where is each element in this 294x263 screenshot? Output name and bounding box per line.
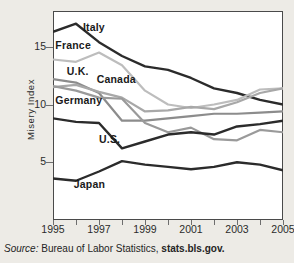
x-tick-1997: 1997 — [79, 223, 119, 235]
x-tick-1999: 1999 — [125, 223, 165, 235]
x-tick-2005: 2005 — [263, 223, 294, 235]
series-line-italy — [53, 24, 283, 105]
y-tickmark — [46, 162, 53, 163]
series-label-us: U.S. — [99, 133, 120, 145]
series-label-italy: Italy — [83, 21, 105, 33]
source-url: stats.bls.gov. — [161, 243, 224, 254]
series-label-japan: Japan — [74, 178, 105, 190]
x-tickmark — [122, 220, 123, 225]
x-tickmark — [168, 220, 169, 225]
y-tick-15: 15 — [30, 40, 46, 52]
source-prefix: Source: — [4, 243, 38, 254]
series-label-uk: U.K. — [67, 65, 89, 77]
y-tick-labels: 51015 — [28, 0, 46, 220]
source-caption: Source: Bureau of Labor Statistics, stat… — [4, 243, 225, 254]
x-tickmark — [214, 220, 215, 225]
series-label-france: France — [55, 39, 91, 51]
series-label-germany: Germany — [55, 94, 102, 106]
x-tick-2001: 2001 — [171, 223, 211, 235]
x-tick-1995: 1995 — [33, 223, 73, 235]
x-tickmark — [76, 220, 77, 225]
y-tickmark — [46, 47, 53, 48]
misery-index-chart: Misery Index 51015 ItalyFranceU.K.Canada… — [0, 0, 294, 263]
x-tickmark — [260, 220, 261, 225]
y-tick-10: 10 — [30, 98, 46, 110]
y-tickmark — [46, 105, 53, 106]
series-line-us — [53, 118, 283, 148]
series-label-canada: Canada — [97, 73, 136, 85]
y-tick-5: 5 — [30, 155, 46, 167]
x-tick-2003: 2003 — [217, 223, 257, 235]
source-body: Bureau of Labor Statistics, — [41, 243, 158, 254]
